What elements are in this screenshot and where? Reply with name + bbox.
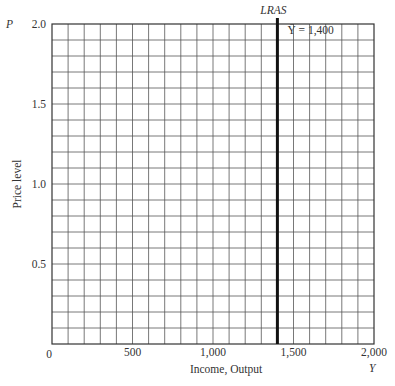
x-axis-title: Income, Output — [190, 363, 263, 376]
lras-label: LRAS — [259, 4, 286, 16]
x-tick-label: 1,500 — [281, 346, 307, 359]
y-tick-label: 1.5 — [32, 98, 47, 110]
x-tick-label: 2,000 — [361, 346, 387, 359]
y-axis-title: Price level — [11, 160, 23, 209]
x-axis-symbol: Y — [369, 362, 377, 374]
lras-chart: LRAS Ȳ = 1,400 0.51.01.52.0 05001,0001,… — [0, 0, 395, 386]
lras-annotation: Ȳ = 1,400 — [287, 24, 334, 37]
x-tick-label: 1,000 — [200, 346, 226, 359]
y-tick-labels: 0.51.01.52.0 — [32, 18, 47, 270]
x-tick-label: 0 — [46, 348, 52, 360]
y-tick-label: 1.0 — [32, 178, 47, 190]
y-tick-label: 2.0 — [32, 18, 47, 30]
y-axis-symbol: P — [5, 18, 13, 30]
grid-lines — [52, 24, 374, 344]
x-tick-labels: 05001,0001,5002,000 — [46, 346, 387, 360]
x-tick-label: 500 — [124, 346, 142, 358]
y-tick-label: 0.5 — [32, 258, 47, 270]
